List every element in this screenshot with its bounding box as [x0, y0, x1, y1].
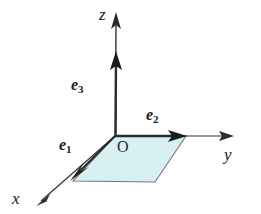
e3-vector-label-subscript: 3	[78, 83, 84, 95]
y-axis-label: y	[224, 146, 232, 163]
e1-vector-label-subscript: 1	[66, 143, 72, 155]
e3-vector-label: e3	[71, 77, 84, 93]
e2-vector-label-subscript: 2	[153, 113, 159, 125]
axes-diagram	[0, 0, 261, 214]
e2-vector-label: e2	[146, 107, 159, 123]
xy-plane-parallelogram	[73, 136, 186, 182]
coordinate-system-figure: z y x e3 e2 e1 O	[0, 0, 261, 214]
x-axis-arrowhead	[36, 194, 50, 206]
e1-vector-label: e1	[59, 137, 72, 153]
e3-vector-line	[116, 60, 117, 136]
origin-label: O	[117, 139, 129, 155]
z-axis-label: z	[99, 6, 106, 23]
x-axis-label: x	[12, 190, 20, 207]
